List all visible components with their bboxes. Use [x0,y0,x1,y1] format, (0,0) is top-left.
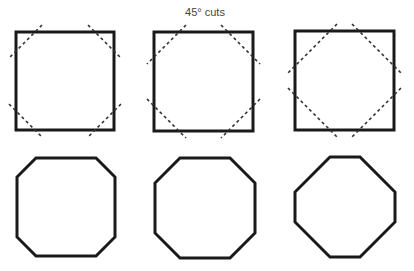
diagram-canvas: 45° cuts [0,0,414,271]
cut-line-1-4 [88,104,121,137]
square-2 [154,32,253,131]
octagon-1 [17,158,115,256]
octagon-2 [155,158,255,258]
cut-line-1-3 [9,104,42,137]
square-1 [16,32,114,130]
shapes-figure [0,0,414,271]
square-3 [295,31,394,130]
cut-line-1-1 [9,25,42,58]
octagon-3 [295,157,395,257]
cut-line-1-2 [88,25,121,58]
